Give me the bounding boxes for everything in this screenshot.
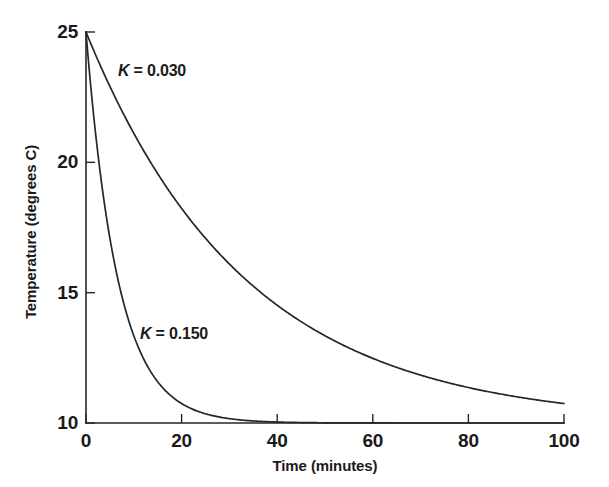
x-tick-label: 100: [548, 430, 579, 452]
series-curve-1: [86, 32, 564, 423]
chart-plot-area: [0, 0, 609, 487]
series-annotation-0: K = 0.030: [118, 62, 186, 80]
x-tick-label: 0: [81, 430, 91, 452]
x-tick-label: 20: [171, 430, 192, 452]
x-tick-label: 40: [267, 430, 288, 452]
cooling-curve-chart: 10152025 020406080100 Temperature (degre…: [0, 0, 609, 487]
y-axis-title: Temperature (degrees C): [22, 145, 39, 319]
series-annotation-value: = 0.030: [129, 62, 186, 79]
series-annotation-symbol: K: [118, 62, 129, 79]
y-tick-label: 10: [30, 412, 78, 434]
series-annotation-1: K = 0.150: [140, 325, 208, 343]
x-axis-title: Time (minutes): [272, 457, 377, 474]
y-tick-label: 25: [30, 21, 78, 43]
series-curve-0: [86, 32, 564, 404]
x-tick-label: 60: [362, 430, 383, 452]
x-tick-label: 80: [458, 430, 479, 452]
x-axis-tick-marks: [86, 414, 564, 423]
series-group: [86, 32, 564, 423]
series-annotation-value: = 0.150: [151, 325, 208, 342]
series-annotation-symbol: K: [140, 325, 151, 342]
